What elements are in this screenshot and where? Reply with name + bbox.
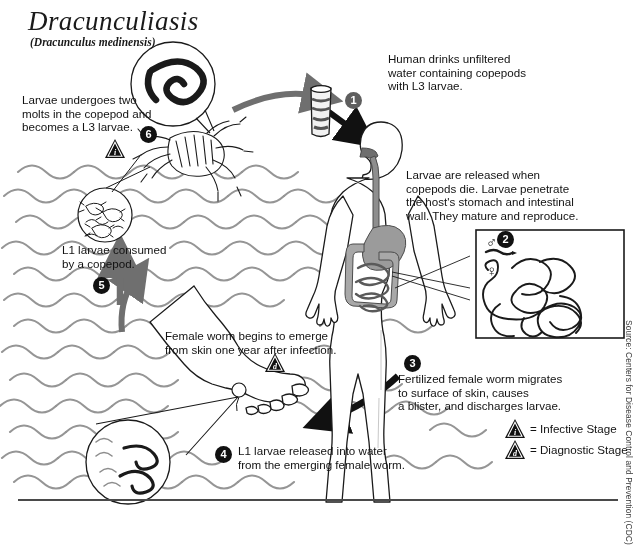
step-4-caption: L1 larvae released into water from the e… <box>238 444 448 471</box>
infective-marker-letter: i <box>105 148 125 157</box>
legend-diagnostic-label: = Diagnostic Stage <box>530 443 628 456</box>
source-credit: Source: Centers for Disease Control and … <box>624 320 634 545</box>
legend-infective-triangle-icon: i <box>505 419 525 438</box>
step-badge-6: 6 <box>140 126 157 143</box>
legend-row-infective: i = Infective Stage <box>505 418 630 439</box>
legend-infective-letter: i <box>505 428 525 437</box>
legend: i = Infective Stage d = Diagnostic Stage <box>505 418 630 460</box>
legend-diagnostic-triangle-icon: d <box>505 440 525 459</box>
l1-larvae-magnifier <box>86 420 170 504</box>
male-symbol: ♂ <box>486 233 497 250</box>
legend-row-diagnostic: d = Diagnostic Stage <box>505 439 630 460</box>
step-badge-3: 3 <box>404 355 421 372</box>
step-1-caption: Human drinks unfiltered water containing… <box>388 52 578 93</box>
digestive-tract <box>345 148 406 311</box>
step-6-caption: Larvae undergoes two molts in the copepo… <box>22 93 202 134</box>
arrow-human-to-foot <box>330 376 398 418</box>
foot-inset-pointer <box>96 397 238 455</box>
diagnostic-stage-marker-icon: d <box>265 353 285 372</box>
cycle-arrow-up-to-copepod <box>122 280 135 332</box>
step-3-caption: Fertilized female worm migrates to surfa… <box>398 372 613 413</box>
copepod-feeding-magnifier <box>78 156 150 242</box>
step-2-caption: Larvae are released when copepods die. L… <box>406 168 621 222</box>
step-badge-4: 4 <box>215 446 232 463</box>
worm-inset-box <box>476 230 624 338</box>
step-badge-2: 2 <box>497 231 514 248</box>
cycle-arrow-to-glass <box>233 94 317 110</box>
diagnostic-marker-letter: d <box>265 362 285 371</box>
legend-infective-label: = Infective Stage <box>530 422 617 435</box>
inset-pointer-lines <box>392 256 470 300</box>
legend-diagnostic-letter: d <box>505 449 525 458</box>
bottom-divider <box>18 499 618 501</box>
step-badge-5: 5 <box>93 277 110 294</box>
step-5-caption: L1 larvae consumed by a copepod. <box>62 243 212 270</box>
page-subtitle: (Dracunculus medinensis) <box>30 36 156 48</box>
page-title: Dracunculiasis <box>28 6 199 37</box>
infective-stage-marker-icon: i <box>105 139 125 158</box>
female-symbol: ♀ <box>486 262 497 279</box>
water-glass-icon <box>311 86 331 137</box>
arrow-drink-to-human <box>322 107 356 132</box>
step-badge-1: 1 <box>345 92 362 109</box>
